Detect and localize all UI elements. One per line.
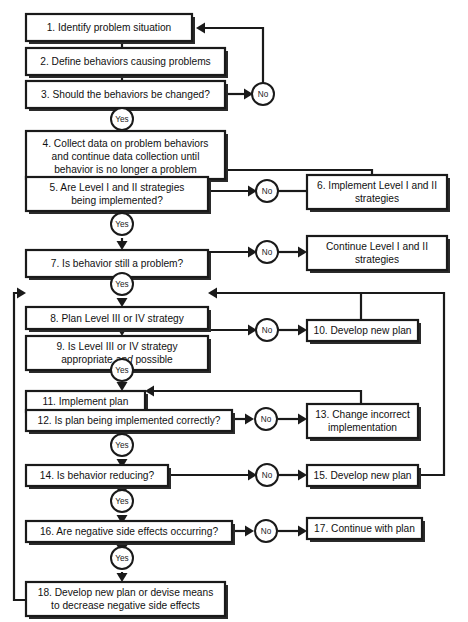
decision-no-6-label: No: [262, 471, 273, 480]
node-8-label: 8. Plan Level III or IV strategy: [50, 313, 185, 324]
node-box-1[interactable]: 1. Identify problem situation: [26, 14, 195, 44]
node-1-label: 1. Identify problem situation: [47, 22, 172, 33]
node-7-label: 7. Is behavior still a problem?: [51, 258, 184, 269]
node-box-3[interactable]: 3. Should the behaviors be changed?: [26, 81, 228, 111]
arrowhead-10-to-8: [208, 288, 217, 299]
node-5-label-line1: 5. Are Level I and II strategies: [50, 182, 185, 193]
node-2-label: 2. Define behaviors causing problems: [40, 56, 210, 67]
decision-no-3-label: No: [262, 248, 273, 257]
node-box-12[interactable]: 12. Is plan being implemented correctly?: [26, 410, 235, 434]
node-box-4[interactable]: 4. Collect data on problem behaviors and…: [26, 131, 228, 182]
arrowhead-no3-to-continue: [298, 247, 307, 258]
decision-no-1-label: No: [258, 90, 269, 99]
node-18-label-line1: 18. Develop new plan or devise means: [38, 587, 214, 598]
flowchart-svg: 1. Identify problem situation 2. Define …: [0, 0, 468, 622]
arrowhead-yes3-to-8: [117, 298, 128, 307]
decision-no-6: No: [256, 464, 278, 486]
arrowhead-12-to-no: [245, 414, 254, 425]
node-14-label: 14. Is behavior reducing?: [40, 470, 155, 481]
decision-yes-7-label: Yes: [115, 554, 128, 563]
decision-yes-5: Yes: [111, 434, 133, 456]
arrowhead-yes4-to-11: [117, 382, 128, 391]
connector-13-to-11: [154, 391, 361, 404]
node-11-label: 11. Implement plan: [43, 396, 129, 407]
decision-yes-3-label: Yes: [115, 280, 128, 289]
node-box-continue-level-1-2[interactable]: Continue Level I and II strategies: [307, 236, 450, 273]
node-10-label: 10. Develop new plan: [314, 325, 412, 336]
decision-yes-1-label: Yes: [115, 115, 128, 124]
node-box-14[interactable]: 14. Is behavior reducing?: [26, 465, 171, 489]
decision-yes-4: Yes: [111, 359, 133, 381]
node-box-16[interactable]: 16. Are negative side effects occurring?: [26, 521, 235, 545]
node-box-18[interactable]: 18. Develop new plan or devise means to …: [26, 582, 228, 619]
arrowhead-yes7-to-18: [117, 573, 128, 582]
arrowhead-no4-to-10: [298, 325, 307, 336]
node-18-label-line2: to decrease negative side effects: [51, 600, 200, 611]
node-6-label-line2: strategies: [355, 193, 399, 204]
node-box-2[interactable]: 2. Define behaviors causing problems: [26, 48, 228, 78]
connector-18-to-8: [14, 293, 26, 600]
node-box-6[interactable]: 6. Implement Level I and II strategies: [307, 175, 450, 212]
node-16-label: 16. Are negative side effects occurring?: [40, 526, 219, 537]
decision-no-2-label: No: [262, 187, 273, 196]
decision-yes-6-label: Yes: [115, 497, 128, 506]
decision-no-2: No: [256, 180, 278, 202]
node-4-label-line1: 4. Collect data on problem behaviors: [43, 138, 209, 149]
node-continue-label-line2: strategies: [355, 254, 399, 265]
node-box-17[interactable]: 17. Continue with plan: [307, 518, 425, 542]
decision-yes-5-label: Yes: [115, 441, 128, 450]
decision-yes-3: Yes: [111, 273, 133, 295]
node-5-label-line2: being implemented?: [71, 195, 163, 206]
arrowhead-no1-to-1: [196, 23, 205, 34]
arrowhead-18-to-8: [17, 288, 26, 299]
node-box-5[interactable]: 5. Are Level I and II strategies being i…: [26, 177, 211, 214]
connector-10-to-8: [217, 293, 361, 320]
node-13-label-line2: implementation: [328, 422, 397, 433]
node-9-label-line1: 9. Is Level III or IV strategy: [56, 341, 178, 352]
node-box-13[interactable]: 13. Change incorrect implementation: [307, 404, 421, 441]
node-4-label-line3: behavior is no longer a problem: [54, 164, 197, 175]
decision-no-5: No: [255, 408, 277, 430]
arrowhead-no5-to-13: [298, 414, 307, 425]
node-15-label: 15. Develop new plan: [314, 470, 412, 481]
node-4-label-line2: and continue data collection until: [52, 151, 200, 162]
decision-yes-6: Yes: [111, 490, 133, 512]
node-3-label: 3. Should the behaviors be changed?: [41, 89, 210, 100]
node-12-label: 12. Is plan being implemented correctly?: [38, 415, 221, 426]
decision-yes-4-label: Yes: [115, 366, 128, 375]
node-13-label-line1: 13. Change incorrect: [315, 409, 410, 420]
decision-no-7-label: No: [261, 527, 272, 536]
decision-no-5-label: No: [261, 415, 272, 424]
decision-no-4: No: [256, 319, 278, 341]
decision-yes-2-label: Yes: [115, 220, 128, 229]
arrowhead-no7-to-17: [298, 526, 307, 537]
node-box-15[interactable]: 15. Develop new plan: [307, 465, 421, 489]
decision-yes-7: Yes: [111, 547, 133, 569]
node-6-label-line1: 6. Implement Level I and II: [317, 180, 437, 191]
decision-no-7: No: [255, 520, 277, 542]
decision-no-1: No: [252, 83, 274, 105]
arrowhead-16-to-no: [245, 526, 254, 537]
decision-yes-1: Yes: [111, 108, 133, 130]
decision-no-4-label: No: [262, 326, 273, 335]
flowchart-canvas: 1. Identify problem situation 2. Define …: [0, 0, 468, 622]
arrowhead-yes2-to-7: [117, 241, 128, 250]
node-box-8[interactable]: 8. Plan Level III or IV strategy: [26, 307, 211, 332]
arrowhead-no6-to-15: [298, 470, 307, 481]
node-continue-label-line1: Continue Level I and II: [326, 241, 428, 252]
node-17-label: 17. Continue with plan: [314, 523, 415, 534]
decision-no-3: No: [256, 241, 278, 263]
decision-yes-2: Yes: [111, 213, 133, 235]
node-box-10[interactable]: 10. Develop new plan: [307, 320, 421, 344]
